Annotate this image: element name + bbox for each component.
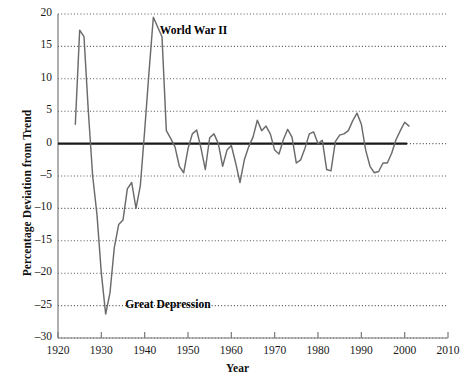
x-tick-label-4: 1960 — [208, 344, 254, 356]
annotation-1: Great Depression — [125, 298, 211, 310]
x-tick-label-6: 1980 — [295, 344, 341, 356]
chart-figure: 20151050–5–10–15–20–25–30 19201930194019… — [0, 0, 475, 386]
x-tick-label-0: 1920 — [35, 344, 81, 356]
tick-marks-group — [58, 332, 448, 338]
x-tick-label-3: 1950 — [165, 344, 211, 356]
x-tick-label-2: 1940 — [122, 344, 168, 356]
x-tick-label-9: 2010 — [425, 344, 471, 356]
y-axis-title: Percentage Deviation from Trend — [18, 0, 36, 386]
annotation-0: World War II — [160, 24, 227, 36]
x-axis-title: Year — [0, 362, 475, 374]
series-polyline — [75, 17, 409, 314]
x-tick-label-8: 2000 — [382, 344, 428, 356]
chart-canvas — [0, 0, 475, 386]
gridlines-group — [58, 14, 448, 338]
x-tick-label-7: 1990 — [338, 344, 384, 356]
x-tick-label-1: 1930 — [78, 344, 124, 356]
x-tick-label-5: 1970 — [252, 344, 298, 356]
data-series-line — [75, 17, 409, 314]
